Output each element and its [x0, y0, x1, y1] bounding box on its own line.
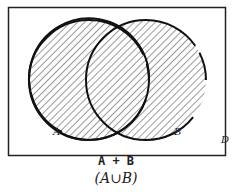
caption-set-notation: (A∪B)	[0, 170, 232, 186]
label-universe-d: D	[220, 134, 229, 145]
label-set-b: B	[173, 126, 181, 137]
caption-expression: A + B	[0, 154, 232, 168]
label-set-a: A	[52, 126, 60, 137]
